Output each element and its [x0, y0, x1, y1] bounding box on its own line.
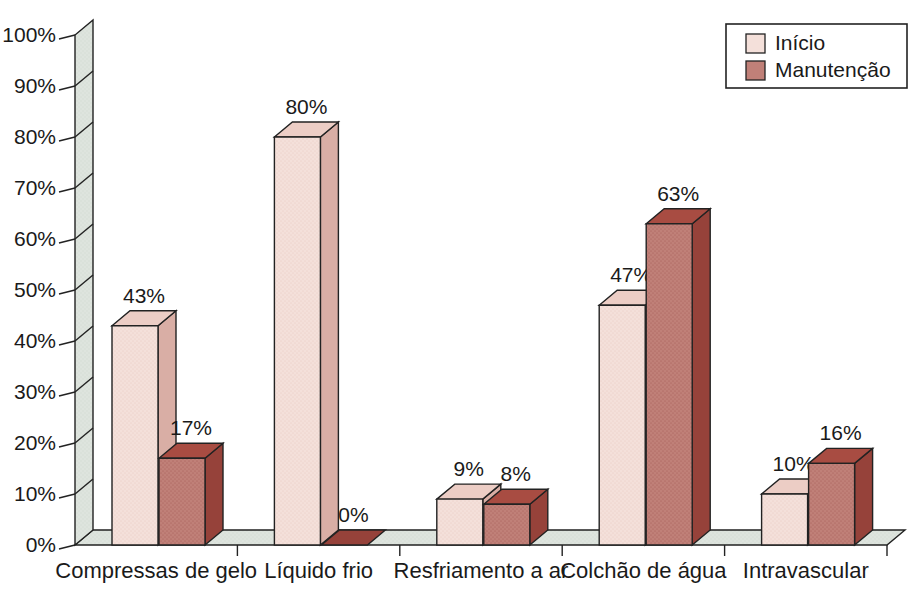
y-axis-tick-label: 70%: [14, 176, 56, 199]
x-axis-category-label: Líquido frio: [264, 558, 373, 583]
x-axis-category-label: Intravascular: [743, 558, 869, 583]
bar-value-label: 17%: [170, 416, 212, 439]
bar-value-label: 80%: [285, 95, 327, 118]
bar-value-label: 43%: [123, 284, 165, 307]
y-axis-tick-label: 40%: [14, 329, 56, 352]
bar-value-label: 16%: [820, 421, 862, 444]
bar-value-label: 9%: [454, 457, 484, 480]
bar-value-label: 8%: [501, 462, 531, 485]
legend-swatch-manutencao: [746, 61, 765, 80]
y-axis-tick-label: 80%: [14, 125, 56, 148]
bar-manutencao-intravascular-front: [809, 463, 855, 545]
bar-chart-svg: 0%10%20%30%40%50%60%70%80%90%100%43%17%C…: [0, 0, 919, 598]
bar-chart-figure: 0%10%20%30%40%50%60%70%80%90%100%43%17%C…: [0, 0, 919, 598]
bar-inicio-resfriamento-a-ar-front: [437, 499, 483, 545]
y-axis-tick-label: 0%: [26, 533, 56, 556]
bar-value-label: 63%: [657, 182, 699, 205]
bar-inicio-intravascular-front: [762, 494, 808, 545]
x-axis-category-label: Colchão de água: [560, 558, 727, 583]
bar-manutencao-compressas-de-gelo-front: [159, 458, 205, 545]
y-axis-tick-label: 50%: [14, 278, 56, 301]
y-axis-tick-label: 100%: [2, 23, 56, 46]
x-axis-category-label: Compressas de gelo: [55, 558, 257, 583]
legend-label-inicio: Início: [775, 31, 825, 54]
y-axis-tick-label: 20%: [14, 431, 56, 454]
bar-value-label: 0%: [338, 503, 368, 526]
bar-manutencao-colchao-de-agua-side: [692, 209, 710, 545]
legend-swatch-inicio: [746, 34, 765, 53]
bar-inicio-liquido-frio-side: [320, 122, 338, 545]
y-axis-tick-label: 30%: [14, 380, 56, 403]
bar-manutencao-resfriamento-a-ar-front: [484, 504, 530, 545]
bar-inicio-compressas-de-gelo-front: [112, 326, 158, 545]
x-axis-category-label: Resfriamento a ar: [394, 558, 569, 583]
bar-manutencao-colchao-de-agua-front: [646, 224, 692, 545]
bar-manutencao-compressas-de-gelo-side: [205, 443, 223, 545]
y-axis-tick-label: 10%: [14, 482, 56, 505]
y-axis-tick-label: 60%: [14, 227, 56, 250]
bar-inicio-liquido-frio-front: [274, 137, 320, 545]
legend-label-manutencao: Manutenção: [775, 58, 891, 81]
y-axis-tick-label: 90%: [14, 74, 56, 97]
bar-inicio-colchao-de-agua-front: [599, 305, 645, 545]
bar-manutencao-intravascular-side: [855, 448, 873, 545]
